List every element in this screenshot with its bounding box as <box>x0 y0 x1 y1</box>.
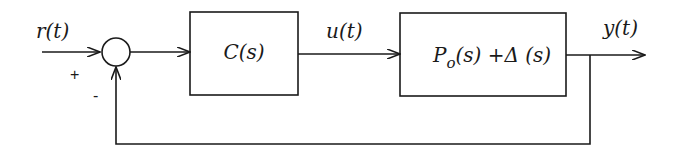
plant-label-rest: (s) +Δ (s) <box>456 43 552 67</box>
summing-junction <box>102 38 130 66</box>
plant-label: Po(s) +Δ (s) <box>432 43 551 72</box>
plant-label-subscript: o <box>446 54 455 72</box>
plant-label-main: P <box>432 43 447 67</box>
plus-sign: + <box>70 66 79 83</box>
minus-sign: - <box>93 87 98 104</box>
output-signal-label: y(t) <box>602 16 638 40</box>
feedback-path <box>116 55 590 144</box>
reference-signal-label: r(t) <box>36 19 69 43</box>
controller-label: C(s) <box>223 40 264 64</box>
control-signal-label: u(t) <box>326 19 363 43</box>
block-diagram: r(t) + - C(s) u(t) Po(s) +Δ (s) y(t) <box>0 0 677 150</box>
